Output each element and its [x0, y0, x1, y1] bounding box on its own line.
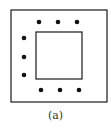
dot	[56, 20, 61, 25]
dot	[22, 55, 27, 60]
dot	[75, 20, 80, 25]
inner-square	[36, 32, 82, 79]
dot	[37, 20, 42, 25]
figure-caption: (a)	[0, 109, 111, 122]
dot	[22, 36, 27, 41]
left-dots	[22, 36, 27, 78]
dot	[77, 88, 82, 93]
top-dots	[37, 20, 80, 25]
dot	[58, 88, 63, 93]
dot	[39, 88, 44, 93]
bottom-dots	[39, 88, 82, 93]
dot	[22, 73, 27, 78]
